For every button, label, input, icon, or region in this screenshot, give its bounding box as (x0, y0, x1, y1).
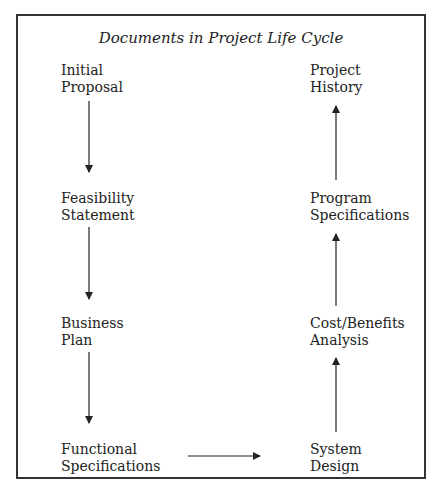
edges-layer (0, 0, 439, 491)
